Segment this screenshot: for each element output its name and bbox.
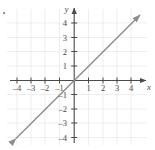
y-tick-label--2: –2 (58, 104, 68, 114)
x-tick-label-3: 3 (115, 83, 119, 93)
y-tick-label-2: 2 (63, 47, 67, 57)
stray-mark (3, 12, 5, 14)
x-tick-label-2: 2 (101, 83, 105, 93)
y-tick-label--3: –3 (58, 118, 68, 128)
x-tick-label--4: –4 (12, 83, 22, 93)
y-tick-label--4: –4 (58, 133, 68, 143)
x-tick-label--3: –3 (26, 83, 36, 93)
x-tick-label--2: –2 (40, 83, 50, 93)
x-axis-label: x (146, 82, 151, 92)
y-tick-label--1: –1 (58, 90, 68, 100)
y-axis-label: y (64, 4, 69, 14)
graph-canvas: –4 –3 –2 –1 1 2 3 4 4 3 2 1 –1 –2 –3 –4 … (0, 0, 155, 150)
x-tick-label-1: 1 (86, 83, 90, 93)
coordinate-plane-figure: –4 –3 –2 –1 1 2 3 4 4 3 2 1 –1 –2 –3 –4 … (0, 0, 155, 150)
y-tick-label-3: 3 (63, 33, 67, 43)
y-tick-label-1: 1 (63, 61, 67, 71)
